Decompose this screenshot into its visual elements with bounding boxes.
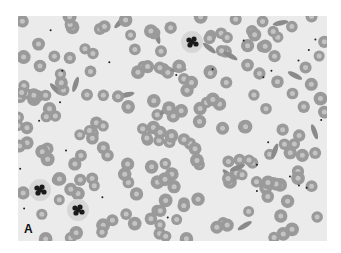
blood-smear-micrograph xyxy=(18,16,327,241)
cells-layer xyxy=(18,16,327,241)
panel-label: A xyxy=(24,222,33,236)
